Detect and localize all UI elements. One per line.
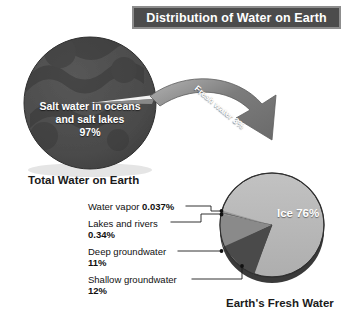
callout-lakes-and-rivers: Lakes and rivers 0.34% <box>88 218 158 240</box>
leader-line-lakes-and-rivers <box>171 214 221 222</box>
callout-water-vapor-name: Water vapor <box>88 201 139 212</box>
slice-label-ice: Ice 76% <box>277 207 319 219</box>
chart-title: Distribution of Water on Earth <box>146 11 326 25</box>
callout-water-vapor: Water vapor 0.037% <box>88 201 174 212</box>
callout-water-vapor-value: 0.037% <box>142 201 174 212</box>
figure-graphics <box>0 0 349 320</box>
endpoint-shallow-groundwater <box>240 264 244 268</box>
callout-shallow-groundwater: Shallow groundwater 12% <box>88 274 177 296</box>
callout-shallow-groundwater-name: Shallow groundwater <box>88 274 177 285</box>
water-distribution-figure: Distribution of Water on Earth Salt wate… <box>0 0 349 320</box>
pie-total-water-inner-label: Salt water in oceans and salt lakes 97% <box>20 100 160 139</box>
caption-total-water: Total Water on Earth <box>28 174 139 186</box>
chart-title-banner: Distribution of Water on Earth <box>132 6 341 29</box>
pie-total-water-label-line3: 97% <box>20 126 160 139</box>
leader-line-shallow-groundwater <box>192 267 242 279</box>
leader-line-water-vapor <box>186 206 221 211</box>
caption-fresh-water: Earth's Fresh Water <box>226 297 334 309</box>
callout-lakes-and-rivers-value: 0.34% <box>88 229 115 240</box>
endpoint-water-vapor <box>220 209 224 213</box>
callout-deep-groundwater-name: Deep groundwater <box>88 246 166 257</box>
pie-fresh-water <box>220 173 324 283</box>
callout-deep-groundwater: Deep groundwater 11% <box>88 246 166 268</box>
pie-total-water-label-line1: Salt water in oceans <box>20 100 160 113</box>
callout-deep-groundwater-value: 11% <box>88 257 107 268</box>
fresh-water-arrow <box>150 79 276 140</box>
callout-shallow-groundwater-value: 12% <box>88 285 107 296</box>
fresh-water-arrow-shape <box>150 79 276 140</box>
endpoint-deep-groundwater <box>220 249 224 253</box>
endpoint-lakes-and-rivers <box>220 213 224 217</box>
pie-total-water-label-line2: and salt lakes <box>20 113 160 126</box>
callout-lakes-and-rivers-name: Lakes and rivers <box>88 218 158 229</box>
